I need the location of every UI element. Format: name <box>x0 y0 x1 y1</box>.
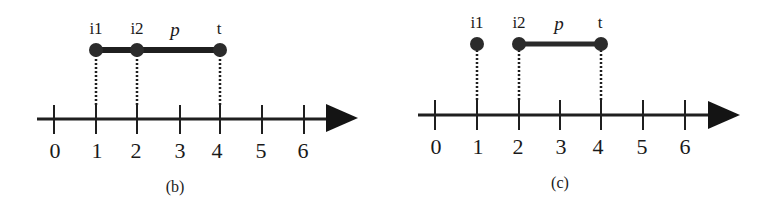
axis-arrow-icon <box>708 101 740 129</box>
tick-label-0: 0 <box>431 134 442 159</box>
point-i1 <box>470 37 484 51</box>
point-i1 <box>89 43 103 57</box>
tick-label-2: 2 <box>131 138 142 163</box>
point-i2 <box>512 37 526 51</box>
point-label-t: t <box>217 19 222 38</box>
point-label-i2: i2 <box>512 13 525 32</box>
tick-label-3: 3 <box>556 134 567 159</box>
tick-label-2: 2 <box>513 134 524 159</box>
panel-caption: (c) <box>551 174 569 192</box>
point-label-i2: i2 <box>130 19 143 38</box>
axis-arrow-icon <box>326 104 358 132</box>
panel-caption: (b) <box>166 178 185 196</box>
tick-label-6: 6 <box>298 138 309 163</box>
point-label-i1: i1 <box>470 13 483 32</box>
panel-b: i1 i2 p t 0 1 2 3 4 5 6 (b) <box>37 19 358 196</box>
point-t <box>213 43 227 57</box>
point-i2 <box>130 43 144 57</box>
tick-label-3: 3 <box>175 138 186 163</box>
tick-label-5: 5 <box>256 138 267 163</box>
tick-label-5: 5 <box>637 134 648 159</box>
tick-label-1: 1 <box>92 138 103 163</box>
point-label-t: t <box>598 13 603 32</box>
tick-label-0: 0 <box>50 138 61 163</box>
tick-label-6: 6 <box>680 134 691 159</box>
tick-label-4: 4 <box>212 138 223 163</box>
point-t <box>594 37 608 51</box>
tick-label-4: 4 <box>593 134 604 159</box>
path-label: p <box>552 13 564 34</box>
path-label: p <box>168 19 180 40</box>
point-label-i1: i1 <box>89 19 102 38</box>
panel-c: i1 i2 p t 0 1 2 3 4 5 6 (c) <box>418 13 740 192</box>
tick-label-1: 1 <box>473 134 484 159</box>
diagram-canvas: i1 i2 p t 0 1 2 3 4 5 6 (b) <box>0 0 776 211</box>
